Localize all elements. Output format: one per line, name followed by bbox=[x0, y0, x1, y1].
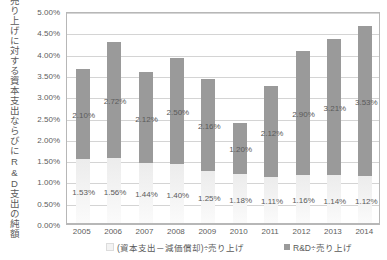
data-label-rd: 3.53% bbox=[355, 98, 378, 107]
data-label-capex: 1.16% bbox=[292, 196, 315, 205]
legend-item-rd[interactable]: R&D÷売り上げ bbox=[284, 241, 352, 253]
data-label-capex: 1.44% bbox=[135, 190, 158, 199]
y-axis-title: 売り上げに対する資本支出ならびにR&D支出の純額 bbox=[2, 6, 20, 228]
bar-group[interactable] bbox=[233, 12, 247, 224]
data-label-rd: 2.10% bbox=[72, 111, 95, 120]
legend-label-rd: R&D÷売り上げ bbox=[293, 241, 352, 253]
data-label-capex: 1.11% bbox=[261, 197, 283, 206]
x-axis-tick-label: 2011 bbox=[261, 227, 278, 236]
y-axis-tick-label: 3.00% bbox=[37, 93, 60, 102]
data-label-rd: 2.12% bbox=[261, 129, 284, 138]
x-axis-tick-label: 2013 bbox=[324, 227, 342, 236]
y-axis-tick-label: 4.00% bbox=[37, 50, 60, 59]
data-label-capex: 1.25% bbox=[198, 194, 221, 203]
x-axis-tick-label: 2009 bbox=[198, 227, 216, 236]
data-label-capex: 1.14% bbox=[324, 197, 347, 206]
data-label-rd: 3.21% bbox=[324, 104, 347, 113]
x-axis-tick-label: 2012 bbox=[293, 227, 311, 236]
x-axis-tick-label: 2014 bbox=[355, 227, 373, 236]
legend-swatch-rd-icon bbox=[284, 244, 290, 250]
y-axis-tick-label: 1.00% bbox=[37, 178, 60, 187]
data-label-rd: 2.90% bbox=[292, 110, 315, 119]
chart-container: 売り上げに対する資本支出ならびにR&D支出の純額 0.00%0.50%1.00%… bbox=[0, 0, 387, 260]
bar-group[interactable] bbox=[358, 12, 372, 224]
data-label-rd: 2.16% bbox=[198, 122, 221, 131]
x-axis-tick-label: 2005 bbox=[73, 227, 91, 236]
data-label-capex: 1.40% bbox=[167, 191, 190, 200]
y-axis-tick-label: 2.00% bbox=[37, 135, 60, 144]
y-axis-tick-label: 1.50% bbox=[37, 157, 60, 166]
y-axis-tick-label: 3.50% bbox=[37, 71, 60, 80]
y-axis-tick-label: 0.00% bbox=[37, 221, 60, 230]
data-label-capex: 1.12% bbox=[355, 197, 378, 206]
data-label-rd: 2.72% bbox=[104, 97, 127, 106]
y-axis-tick-labels: 0.00%0.50%1.00%1.50%2.00%2.50%3.00%3.50%… bbox=[22, 12, 64, 225]
plot-area: 2.10%1.53%2.72%1.56%2.12%1.44%2.50%1.40%… bbox=[66, 12, 380, 225]
x-axis-baseline bbox=[67, 223, 379, 224]
bar-group[interactable] bbox=[201, 12, 215, 224]
y-axis-tick-label: 2.50% bbox=[37, 114, 60, 123]
chart-legend: (資本支出－減価償却)÷売り上げ R&D÷売り上げ bbox=[66, 241, 384, 257]
x-axis-tick-label: 2006 bbox=[104, 227, 122, 236]
x-axis-tick-labels: 2005200620072008200920102011201220132014 bbox=[66, 227, 380, 239]
bar-group[interactable] bbox=[327, 12, 341, 224]
y-axis-tick-label: 5.00% bbox=[37, 8, 60, 17]
data-label-capex: 1.18% bbox=[229, 196, 252, 205]
y-axis-tick-label: 0.50% bbox=[37, 199, 60, 208]
legend-item-capex[interactable]: (資本支出－減価償却)÷売り上げ bbox=[106, 241, 244, 253]
data-label-capex: 1.53% bbox=[72, 188, 95, 197]
data-label-rd: 1.20% bbox=[229, 145, 252, 154]
legend-swatch-capex-icon bbox=[106, 243, 114, 251]
bar-group[interactable] bbox=[264, 12, 278, 224]
y-axis-tick-label: 4.50% bbox=[37, 29, 60, 38]
data-label-rd: 2.50% bbox=[167, 108, 190, 117]
x-axis-tick-label: 2008 bbox=[167, 227, 185, 236]
x-axis-tick-label: 2007 bbox=[136, 227, 154, 236]
legend-label-capex: (資本支出－減価償却)÷売り上げ bbox=[117, 241, 244, 253]
data-label-rd: 2.12% bbox=[135, 115, 158, 124]
x-axis-tick-label: 2010 bbox=[230, 227, 248, 236]
data-label-capex: 1.56% bbox=[104, 188, 127, 197]
